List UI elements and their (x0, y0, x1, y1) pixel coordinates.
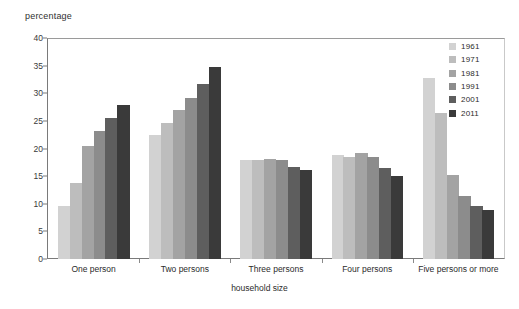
bar (185, 98, 197, 259)
legend-item[interactable]: 1971 (449, 53, 511, 66)
bar (252, 160, 264, 259)
bar (264, 159, 276, 259)
x-axis-category-labels: One personTwo personsThree personsFour p… (48, 264, 504, 280)
group-separator (230, 259, 231, 263)
bar (470, 206, 482, 259)
y-tick-label: 20 (34, 144, 43, 154)
bar (94, 131, 106, 259)
x-category-label: Three persons (249, 264, 304, 274)
legend-swatch-icon (449, 43, 456, 50)
legend-item[interactable]: 2011 (449, 106, 511, 119)
bar (117, 105, 129, 259)
y-tick-label: 40 (34, 33, 43, 43)
bar (423, 78, 435, 259)
bar (435, 113, 447, 259)
legend-item[interactable]: 1991 (449, 80, 511, 93)
bar (240, 160, 252, 259)
legend-swatch-icon (449, 83, 456, 90)
bar-group (240, 38, 311, 259)
plot-area (48, 38, 504, 259)
bar-group (58, 38, 129, 259)
legend-swatch-icon (449, 110, 456, 117)
legend-label: 1971 (461, 55, 480, 64)
bar (379, 168, 391, 259)
bar-group (149, 38, 220, 259)
bar (300, 170, 312, 259)
y-tick-label: 35 (34, 61, 43, 71)
legend-item[interactable]: 2001 (449, 93, 511, 106)
legend-item[interactable]: 1981 (449, 67, 511, 80)
legend-swatch-icon (449, 70, 456, 77)
legend-swatch-icon (449, 56, 456, 63)
bar (105, 118, 117, 259)
bar (70, 183, 82, 259)
bar (161, 123, 173, 259)
bar (209, 67, 221, 259)
bar-group (332, 38, 403, 259)
x-category-label: One person (71, 264, 115, 274)
x-category-label: Five persons or more (418, 264, 498, 274)
bar (343, 157, 355, 259)
legend: 196119711981199120012011 (449, 40, 511, 120)
legend-label: 1961 (461, 42, 480, 51)
bar (58, 206, 70, 259)
bar-chart: percentage 0510152025303540 One personTw… (0, 0, 519, 309)
group-separator (139, 259, 140, 263)
x-category-label: Two persons (161, 264, 209, 274)
legend-label: 1981 (461, 69, 480, 78)
bar (82, 146, 94, 259)
bar (458, 196, 470, 259)
legend-item[interactable]: 1961 (449, 40, 511, 53)
y-tick-label: 10 (34, 199, 43, 209)
legend-swatch-icon (449, 96, 456, 103)
x-axis-title: household size (0, 283, 519, 293)
bar (332, 155, 344, 259)
y-axis-title: percentage (25, 11, 72, 21)
bar (367, 157, 379, 259)
group-separator (322, 259, 323, 263)
legend-label: 2001 (461, 95, 480, 104)
legend-label: 1991 (461, 82, 480, 91)
bar (447, 175, 459, 259)
y-axis-tick-labels: 0510152025303540 (0, 38, 43, 259)
bar (482, 210, 494, 259)
x-category-label: Four persons (342, 264, 392, 274)
bar (288, 167, 300, 259)
bar (391, 176, 403, 259)
y-tick-label: 15 (34, 171, 43, 181)
legend-label: 2011 (461, 109, 479, 118)
bar (355, 153, 367, 259)
bar (173, 110, 185, 259)
bar (149, 135, 161, 259)
group-separator (413, 259, 414, 263)
y-tick-label: 25 (34, 116, 43, 126)
bar (276, 160, 288, 259)
bar (197, 84, 209, 259)
y-tick-label: 30 (34, 88, 43, 98)
